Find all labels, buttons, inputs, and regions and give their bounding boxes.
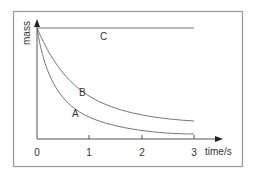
x-tick-label-0: 0	[34, 147, 40, 158]
x-tick-label-3: 3	[191, 147, 197, 158]
y-axis-label: mass	[21, 21, 32, 45]
curve-b	[37, 28, 194, 121]
x-axis-label: time/s	[205, 146, 232, 157]
curve-a-label: A	[72, 108, 79, 119]
mass-time-chart: 0 1 2 3 time/s mass C B A	[0, 0, 254, 176]
x-tick-label-2: 2	[139, 147, 145, 158]
x-axis-arrow-icon	[215, 136, 223, 142]
x-tick-label-1: 1	[86, 147, 92, 158]
curve-a	[37, 28, 194, 134]
curve-c-label: C	[100, 31, 107, 42]
chart-frame	[14, 12, 243, 167]
y-axis-arrow-icon	[34, 19, 40, 27]
curve-b-label: B	[79, 87, 86, 98]
